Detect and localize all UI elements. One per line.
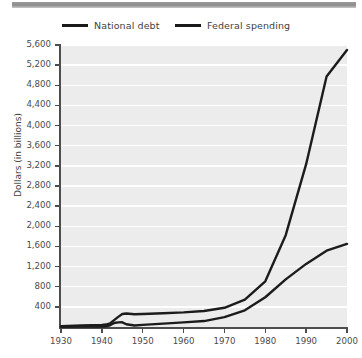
series-line-federal-spending: [61, 244, 347, 327]
series-line-national-debt: [61, 50, 347, 326]
series-lines: [0, 0, 362, 358]
line-chart: Dollars (in billions) 5,6005,2004,8004,4…: [0, 0, 362, 358]
